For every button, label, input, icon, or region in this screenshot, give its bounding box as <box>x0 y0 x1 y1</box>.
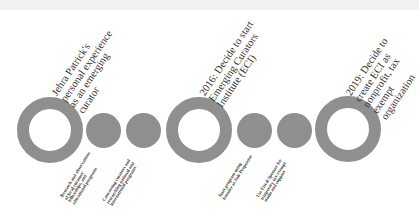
step-dot-1 <box>86 113 121 148</box>
step-label-3: Start program using founder as Sole Prop… <box>218 152 253 201</box>
step-dot-2 <box>126 113 161 148</box>
milestone-label-2: 2016: Decide to start Emerging Curators … <box>198 19 274 110</box>
step-dot-3 <box>237 113 272 148</box>
step-label-4: Use Fiscal Sponsor for temporary tax-exe… <box>256 159 291 204</box>
step-dot-4 <box>277 113 312 148</box>
step-label-1: Research and observations of local curat… <box>60 151 104 205</box>
top-band <box>0 0 419 10</box>
step-label-2: Canvassing curators and researching nati… <box>102 159 140 208</box>
